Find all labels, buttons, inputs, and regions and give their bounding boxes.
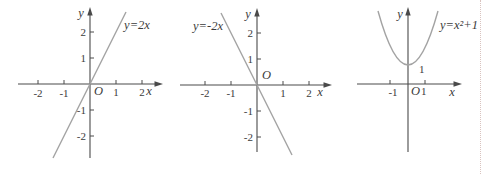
y-axis-label: y — [395, 7, 403, 21]
y-tick-label: 1 — [81, 52, 87, 64]
y-axis-label: y — [76, 6, 84, 20]
graph-panel-y-2x: y y=2x x O -2 -1 1 2 2 1 -1 -2 — [0, 0, 170, 174]
y-tick-label: 2 — [81, 26, 87, 38]
page-border-dotted-line — [480, 0, 481, 174]
x-axis-arrow-icon — [324, 82, 333, 87]
x-tick-label: -1 — [388, 86, 397, 98]
graph-panel-y-neg-2x: y y=-2x x O -2 -1 1 2 2 1 -1 -2 — [170, 0, 340, 174]
x-axis-label: x — [316, 85, 323, 99]
x-tick-label: 2 — [306, 87, 312, 99]
graph-svg-y-2x: y y=2x x O -2 -1 1 2 2 1 -1 -2 — [0, 0, 170, 174]
x-tick-label: 1 — [421, 85, 427, 97]
x-tick-label: -1 — [226, 87, 235, 99]
y-tick-label: -1 — [77, 104, 86, 116]
x-tick-label: -2 — [200, 87, 209, 99]
graph-svg-parabola: y y=x²+1 1 x O -1 1 — [340, 0, 493, 174]
x-axis-label: x — [448, 85, 455, 99]
y-axis-arrow-icon — [87, 7, 92, 16]
x-tick-label: 2 — [139, 86, 145, 98]
y-tick-label: -2 — [77, 130, 86, 142]
y-axis-arrow-icon — [254, 8, 259, 17]
x-tick-label: -1 — [59, 87, 68, 99]
x-tick-label: 1 — [113, 86, 119, 98]
equation-label: y=x²+1 — [438, 18, 478, 32]
origin-label: O — [262, 68, 271, 82]
origin-label: O — [94, 84, 103, 98]
y-tick-label: -1 — [244, 105, 253, 117]
equation-label: y=-2x — [191, 19, 223, 33]
y-axis-label: y — [243, 7, 251, 21]
origin-label: O — [411, 84, 420, 98]
vertex-label: 1 — [419, 63, 425, 75]
x-axis-label: x — [145, 84, 152, 98]
equation-label: y=2x — [122, 18, 150, 32]
y-tick-label: 1 — [248, 53, 254, 65]
x-tick-label: 1 — [280, 87, 286, 99]
x-tick-label: -2 — [33, 87, 42, 99]
y-tick-label: -2 — [244, 131, 253, 143]
x-axis-arrow-icon — [155, 81, 164, 86]
graph-panel-parabola: y y=x²+1 1 x O -1 1 — [340, 0, 493, 174]
graph-svg-y-neg-2x: y y=-2x x O -2 -1 1 2 2 1 -1 -2 — [170, 0, 340, 174]
y-tick-label: 2 — [248, 27, 254, 39]
figure-canvas: y y=2x x O -2 -1 1 2 2 1 -1 -2 — [0, 0, 493, 174]
y-axis-arrow-icon — [405, 7, 410, 16]
